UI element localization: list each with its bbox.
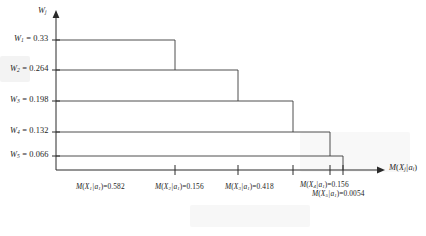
y-tick-label-3: W3 = 0.198 <box>10 95 49 104</box>
x-axis-label: M(Xj|ai) <box>389 163 417 172</box>
x-tick-label-1: M(X1|a1)=0.582 <box>76 182 125 191</box>
x-tick-label-3: M(X3|a1)=0.418 <box>225 182 274 191</box>
x-tick-label-2: M(X2|a1)=0.156 <box>155 182 204 191</box>
y-tick-label-2: W2 = 0.264 <box>10 64 49 73</box>
x-tick-label-5: M(X5|a1)=0.0054 <box>312 189 364 198</box>
y-tick-label-5: W5 = 0.066 <box>10 150 49 159</box>
staircase-outline <box>56 40 343 170</box>
y-axis-label: Wj <box>38 6 47 15</box>
y-tick-label-1: W1 = 0.33 <box>14 34 48 43</box>
x-axis-arrowhead <box>377 167 385 174</box>
y-axis-arrowhead <box>53 10 60 18</box>
y-tick-label-4: W4 = 0.132 <box>10 126 49 135</box>
x-tick-label-4: M(X4|a1)=0.156 <box>300 180 349 189</box>
step-diagram-canvas <box>0 0 426 236</box>
